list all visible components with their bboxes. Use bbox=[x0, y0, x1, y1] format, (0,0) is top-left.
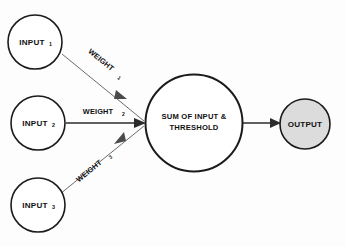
edge-weight3-line bbox=[60, 126, 144, 194]
node-summation[interactable]: SUM OF INPUT & THRESHOLD bbox=[146, 75, 243, 172]
node-input3-subscript: 3 bbox=[52, 204, 55, 210]
edge-weight1-label: WEIGHT bbox=[86, 47, 116, 73]
node-input2-label: INPUT bbox=[22, 119, 47, 128]
edge-weight3-subscript: 3 bbox=[107, 154, 113, 161]
node-output-label: OUTPUT bbox=[288, 120, 322, 129]
node-input1[interactable]: INPUT 1 bbox=[8, 15, 62, 69]
edge-weight1-subscript: 1 bbox=[116, 75, 122, 82]
node-input2[interactable]: INPUT 2 bbox=[11, 96, 65, 150]
edge-weight1-label-group: WEIGHT 1 bbox=[86, 47, 125, 81]
edge-weight2-arrowhead bbox=[134, 118, 146, 128]
node-input3[interactable]: INPUT 3 bbox=[11, 178, 65, 232]
edge-weight2-subscript: 2 bbox=[122, 111, 125, 117]
node-input2-subscript: 2 bbox=[52, 122, 55, 128]
node-summation-line2: THRESHOLD bbox=[169, 123, 218, 132]
edge-output bbox=[243, 118, 281, 128]
edge-weight3-label-group: WEIGHT 3 bbox=[74, 150, 113, 184]
edge-weight1-arrowhead bbox=[114, 90, 127, 99]
edge-weight3: WEIGHT 3 bbox=[60, 126, 144, 194]
node-input1-subscript: 1 bbox=[49, 41, 52, 47]
diagram-canvas: WEIGHT 1 WEIGHT 2 WEIGHT 3 bbox=[0, 0, 346, 246]
edge-weight2-label: WEIGHT bbox=[83, 107, 114, 116]
node-summation-line1: SUM OF INPUT & bbox=[162, 112, 227, 121]
edge-weight3-label: WEIGHT bbox=[74, 158, 104, 184]
node-output[interactable]: OUTPUT bbox=[280, 99, 330, 149]
edge-weight2: WEIGHT 2 bbox=[66, 107, 146, 128]
perceptron-diagram: WEIGHT 1 WEIGHT 2 WEIGHT 3 bbox=[0, 0, 346, 246]
node-input3-label: INPUT bbox=[22, 201, 47, 210]
node-input1-label: INPUT bbox=[19, 38, 44, 47]
